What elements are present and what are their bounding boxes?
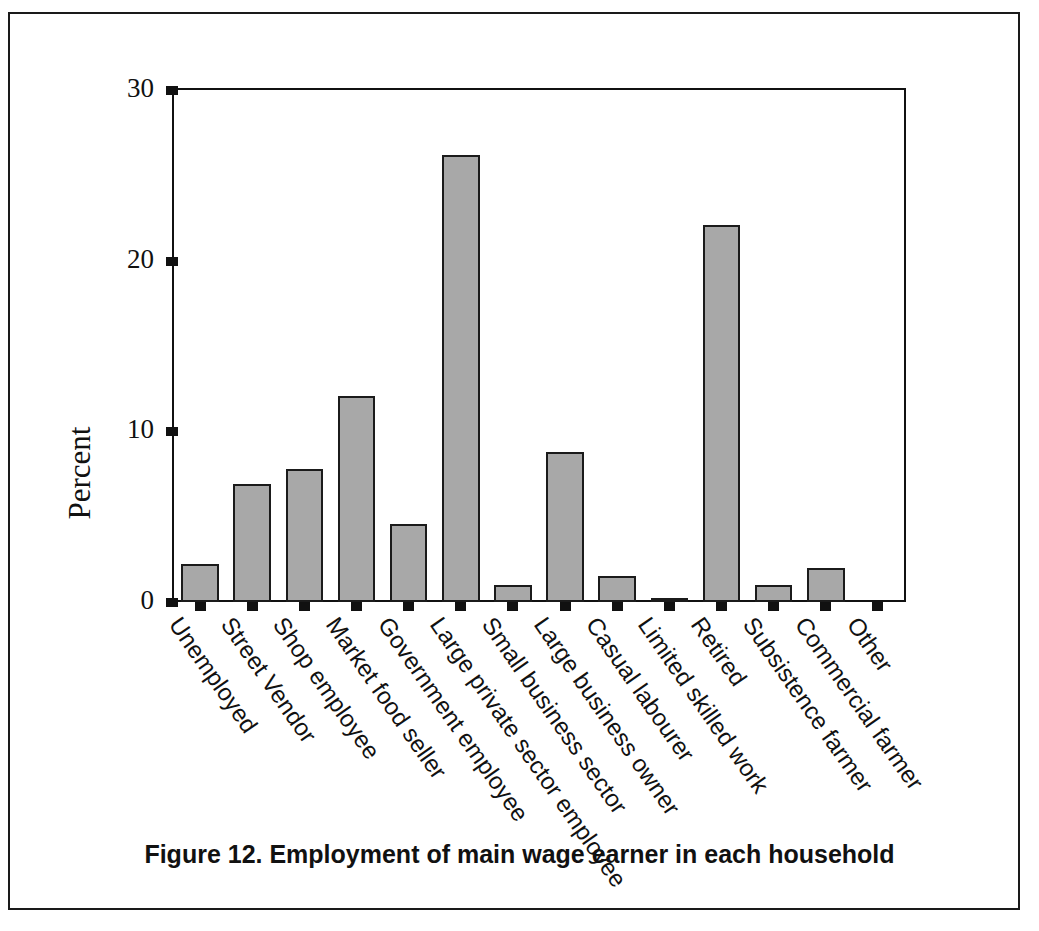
x-axis-tick-mark	[716, 602, 727, 611]
bar	[181, 564, 219, 602]
x-axis-tick-mark	[768, 602, 779, 611]
bar-slot	[330, 90, 382, 602]
y-axis-tick-mark	[166, 427, 178, 436]
y-axis-tick-mark	[166, 598, 178, 607]
figure-caption: Figure 12. Employment of main wage earne…	[0, 840, 1039, 869]
bar-slot	[695, 90, 747, 602]
bar-slot	[278, 90, 330, 602]
bar	[546, 452, 584, 602]
y-axis-tick-mark	[166, 257, 178, 266]
x-axis-tick-mark	[247, 602, 258, 611]
bar	[233, 484, 271, 602]
bar	[755, 585, 793, 602]
x-axis-tick-mark	[872, 602, 883, 611]
x-axis-tick-mark	[612, 602, 623, 611]
bar-slot	[748, 90, 800, 602]
x-axis-tick-mark	[507, 602, 518, 611]
y-axis-tick-label: 20	[127, 246, 154, 273]
bar	[703, 225, 741, 602]
bar	[390, 524, 428, 603]
y-axis-tick-labels: 0102030	[92, 0, 154, 931]
x-axis-tick-mark	[351, 602, 362, 611]
bar-slot	[435, 90, 487, 602]
bar-slot	[174, 90, 226, 602]
bar-slot	[383, 90, 435, 602]
bar	[338, 396, 376, 603]
bar-slot	[800, 90, 852, 602]
bar	[442, 155, 480, 602]
y-axis-tick-label: 0	[141, 587, 155, 614]
y-axis-tick-label: 30	[127, 75, 154, 102]
x-axis-tick-mark	[195, 602, 206, 611]
bar-slot	[487, 90, 539, 602]
y-axis-tick-label: 10	[127, 416, 154, 443]
bar	[598, 576, 636, 602]
bar	[494, 585, 532, 602]
figure-page: Percent 0102030 UnemployedStreet VendorS…	[0, 0, 1039, 931]
bar-slot	[539, 90, 591, 602]
bar-slot	[643, 90, 695, 602]
bar	[286, 469, 324, 602]
x-axis-tick-mark	[664, 602, 675, 611]
bar	[807, 568, 845, 602]
bar-chart: Percent 0102030 UnemployedStreet VendorS…	[0, 0, 1039, 931]
x-axis-tick-mark	[403, 602, 414, 611]
x-axis-tick-mark	[299, 602, 310, 611]
bar-slot	[226, 90, 278, 602]
x-axis-tick-mark	[820, 602, 831, 611]
x-axis-tick-mark	[455, 602, 466, 611]
bar-slot	[852, 90, 904, 602]
bars-container	[174, 90, 904, 602]
bar-slot	[591, 90, 643, 602]
y-axis-tick-mark	[166, 86, 178, 95]
x-axis-tick-mark	[560, 602, 571, 611]
x-axis-tick-labels: UnemployedStreet VendorShop employeeMark…	[174, 612, 904, 812]
